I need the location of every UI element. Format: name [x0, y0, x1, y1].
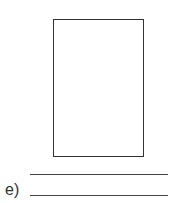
drawing-box: [53, 19, 144, 157]
answer-line-1: [30, 174, 168, 175]
item-label: e): [5, 181, 19, 199]
answer-line-2: [30, 195, 168, 196]
